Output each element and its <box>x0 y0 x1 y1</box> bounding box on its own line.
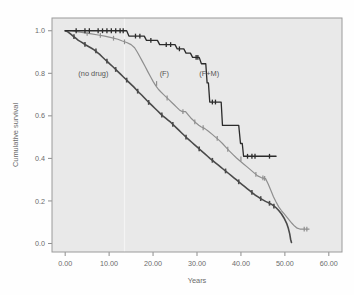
survival-chart-figure: 0.00.20.40.60.81.0 0.0010.0020.0030.0040… <box>0 0 354 295</box>
x-tick-label: 0.00 <box>58 259 72 268</box>
x-tick-label: 30.00 <box>188 259 206 268</box>
curve-label: (F) <box>160 69 169 78</box>
y-tick-label: 0.2 <box>35 197 45 206</box>
y-axis-title: Cumulative survival <box>11 103 20 167</box>
x-tick-label: 20.00 <box>144 259 162 268</box>
x-tick-label: 10.00 <box>100 259 118 268</box>
y-tick-label: 0.4 <box>35 154 45 163</box>
kaplan-meier-chart: 0.00.20.40.60.81.0 0.0010.0020.0030.0040… <box>0 0 354 295</box>
y-tick-label: 0.8 <box>35 69 45 78</box>
curve-label: (no drug) <box>78 69 108 78</box>
y-tick-label: 0.0 <box>35 239 45 248</box>
x-tick-label: 60.00 <box>320 259 338 268</box>
curve-label: (F+M) <box>199 69 219 78</box>
x-axis-title: Years <box>188 276 207 285</box>
x-tick-label: 40.00 <box>232 259 250 268</box>
x-tick-label: 50.00 <box>276 259 294 268</box>
y-tick-label: 0.6 <box>35 111 45 120</box>
y-tick-label: 1.0 <box>35 26 45 35</box>
